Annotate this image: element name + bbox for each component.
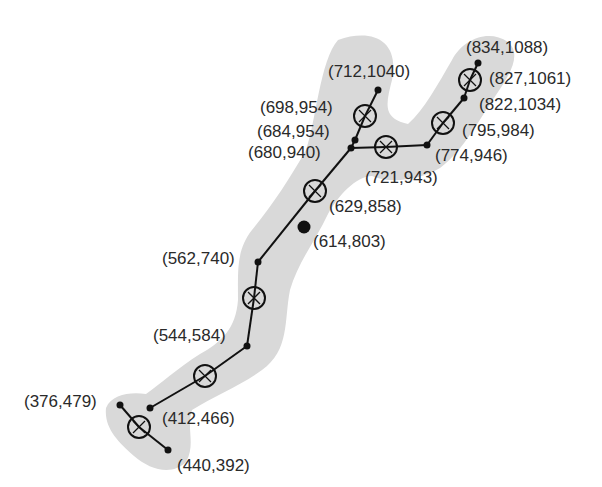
coordinate-label: (795,984) bbox=[462, 121, 535, 140]
skeleton-node bbox=[255, 259, 262, 266]
skeleton-node bbox=[352, 137, 359, 144]
coordinate-label: (412,466) bbox=[162, 409, 235, 428]
coordinate-label: (614,803) bbox=[313, 232, 386, 251]
coordinate-label: (562,740) bbox=[162, 249, 235, 268]
skeleton-node bbox=[147, 405, 154, 412]
coordinate-label: (680,940) bbox=[248, 143, 321, 162]
skeleton-node bbox=[375, 87, 382, 94]
skeleton-node bbox=[165, 447, 172, 454]
coordinate-label: (834,1088) bbox=[466, 38, 548, 57]
coordinate-label: (376,479) bbox=[24, 392, 97, 411]
skeleton-node bbox=[461, 95, 468, 102]
coordinate-label: (684,954) bbox=[257, 122, 330, 141]
coordinate-label: (774,946) bbox=[435, 146, 508, 165]
coordinate-label: (629,858) bbox=[329, 197, 402, 216]
coordinate-label: (822,1034) bbox=[479, 95, 561, 114]
skeleton-edge bbox=[351, 147, 386, 148]
skeleton-node bbox=[475, 60, 482, 67]
skeleton-node bbox=[348, 145, 355, 152]
coordinate-label: (544,584) bbox=[153, 326, 226, 345]
coordinate-label: (440,392) bbox=[177, 456, 250, 475]
coordinate-label: (721,943) bbox=[365, 168, 438, 187]
skeleton-node bbox=[424, 142, 431, 149]
coordinate-label: (827,1061) bbox=[489, 69, 571, 88]
skeleton-node bbox=[117, 402, 124, 409]
skeleton-node bbox=[244, 343, 251, 350]
skeleton-diagram: (827,1061)(795,984)(721,943)(698,954)(62… bbox=[0, 0, 602, 487]
coordinate-label: (698,954) bbox=[260, 98, 333, 117]
skeleton-node bbox=[298, 221, 311, 234]
coordinate-label: (712,1040) bbox=[328, 62, 410, 81]
